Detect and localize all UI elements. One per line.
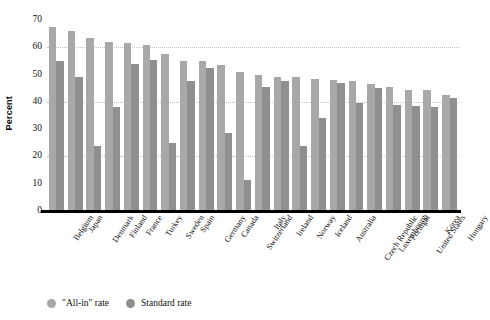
- bar-standard-rate: [450, 98, 457, 211]
- plot-area: 010203040506070: [47, 20, 459, 211]
- legend-swatch-circle-icon: [126, 299, 135, 308]
- bar-group: [367, 20, 382, 211]
- bar-standard-rate: [431, 107, 438, 211]
- bar-standard-rate: [94, 146, 101, 211]
- y-tick-label: 20: [33, 152, 43, 162]
- legend-item: Standard rate: [126, 298, 191, 308]
- bar-allin-rate: [330, 80, 337, 211]
- bar-group: [217, 20, 232, 211]
- bar-allin-rate: [180, 61, 187, 211]
- bar-standard-rate: [375, 88, 382, 211]
- bar-standard-rate: [169, 143, 176, 211]
- bar-allin-rate: [274, 77, 281, 211]
- bar-allin-rate: [255, 75, 262, 211]
- y-tick-label: 10: [33, 179, 43, 189]
- bar-allin-rate: [217, 65, 224, 211]
- bar-standard-rate: [300, 146, 307, 211]
- bar-group: [161, 20, 176, 211]
- bar-allin-rate: [199, 61, 206, 211]
- bar-allin-rate: [124, 43, 131, 211]
- bar-standard-rate: [281, 81, 288, 211]
- bar-standard-rate: [187, 81, 194, 211]
- x-tick-label: Norway: [316, 214, 338, 241]
- legend-label: Standard rate: [141, 298, 191, 308]
- bar-group: [105, 20, 120, 211]
- bar-group: [349, 20, 364, 211]
- bar-allin-rate: [423, 90, 430, 211]
- bar-allin-rate: [442, 95, 449, 211]
- bar-group: [86, 20, 101, 211]
- bar-group: [255, 20, 270, 211]
- bar-groups: [47, 20, 459, 211]
- bar-group: [68, 20, 83, 211]
- bar-allin-rate: [367, 84, 374, 211]
- bar-group: [143, 20, 158, 211]
- x-tick-label: Turkey: [164, 214, 184, 238]
- legend-swatch-circle-icon: [47, 299, 56, 308]
- bar-group: [274, 20, 289, 211]
- bar-standard-rate: [393, 105, 400, 211]
- bar-group: [311, 20, 326, 211]
- bar-standard-rate: [244, 180, 251, 211]
- y-tick-label: 40: [33, 97, 43, 107]
- bar-group: [423, 20, 438, 211]
- bar-allin-rate: [292, 77, 299, 211]
- bar-group: [405, 20, 420, 211]
- bar-group: [49, 20, 64, 211]
- bar-standard-rate: [75, 77, 82, 211]
- y-axis-title: Percent: [4, 96, 20, 130]
- bar-standard-rate: [262, 87, 269, 211]
- y-tick-label: 30: [33, 124, 43, 134]
- bar-standard-rate: [113, 107, 120, 211]
- bar-group: [292, 20, 307, 211]
- bar-standard-rate: [337, 83, 344, 211]
- x-axis-baseline: [41, 210, 461, 213]
- bar-allin-rate: [86, 38, 93, 211]
- bar-standard-rate: [319, 118, 326, 211]
- legend-item: "All-in" rate: [47, 298, 109, 308]
- legend-label: "All-in" rate: [62, 298, 109, 308]
- bar-standard-rate: [206, 68, 213, 211]
- bar-group: [442, 20, 457, 211]
- bar-allin-rate: [161, 54, 168, 211]
- chart-legend: "All-in" rateStandard rate: [47, 298, 191, 308]
- bar-group: [386, 20, 401, 211]
- x-axis-labels: BelgiumJapanDenmarkFinlandFranceTurkeySw…: [47, 214, 459, 294]
- bar-allin-rate: [105, 42, 112, 211]
- bar-group: [330, 20, 345, 211]
- bar-standard-rate: [225, 133, 232, 211]
- x-tick-label: Australia: [355, 214, 379, 244]
- bar-allin-rate: [405, 90, 412, 211]
- bar-allin-rate: [349, 81, 356, 211]
- bar-group: [180, 20, 195, 211]
- y-tick-label: 50: [33, 70, 43, 80]
- bar-standard-rate: [150, 60, 157, 211]
- bar-allin-rate: [143, 45, 150, 211]
- y-tick-label: 70: [33, 15, 43, 25]
- bar-allin-rate: [386, 87, 393, 211]
- bar-group: [199, 20, 214, 211]
- bar-allin-rate: [68, 31, 75, 211]
- bar-standard-rate: [412, 106, 419, 211]
- x-tick-label: Hungary: [466, 214, 489, 243]
- bar-group: [124, 20, 139, 211]
- y-tick-label: 60: [33, 43, 43, 53]
- bar-standard-rate: [356, 103, 363, 211]
- bar-standard-rate: [131, 64, 138, 211]
- bar-standard-rate: [56, 61, 63, 211]
- bar-allin-rate: [311, 79, 318, 211]
- bar-allin-rate: [236, 72, 243, 211]
- bar-allin-rate: [49, 27, 56, 211]
- bar-group: [236, 20, 251, 211]
- x-tick-label: Ireland: [295, 214, 315, 238]
